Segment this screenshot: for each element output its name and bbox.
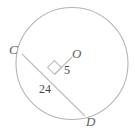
chord-line bbox=[22, 54, 85, 116]
measure-label-radius: 5 bbox=[64, 64, 70, 76]
measure-label-chord: 24 bbox=[39, 83, 51, 95]
point-label-o: O bbox=[72, 47, 81, 60]
point-label-c: C bbox=[9, 43, 18, 56]
right-angle-square-icon bbox=[48, 61, 62, 75]
point-label-d: D bbox=[86, 115, 95, 128]
geometry-figure: C O D 5 24 bbox=[0, 0, 135, 136]
